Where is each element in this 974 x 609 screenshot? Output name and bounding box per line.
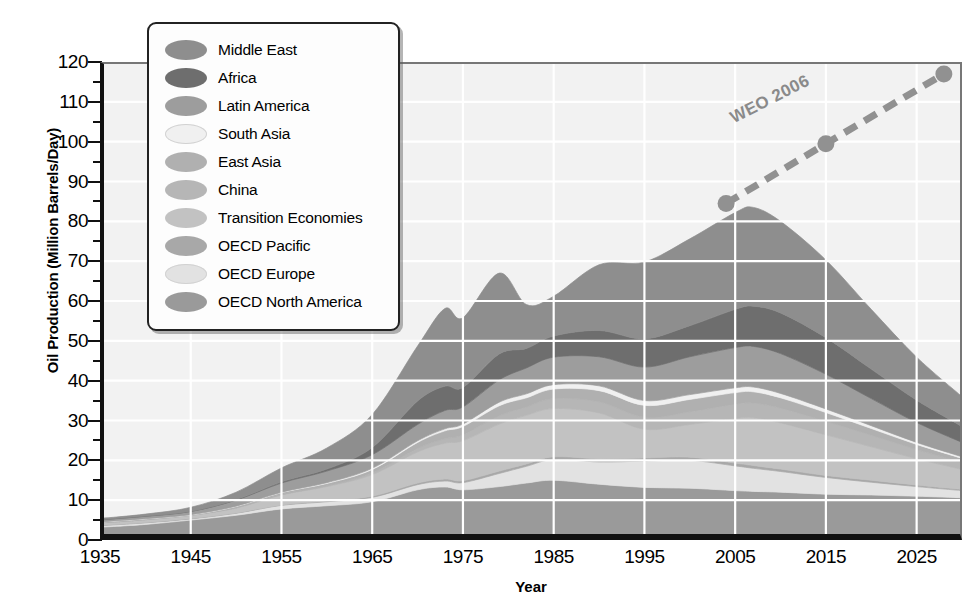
weo-projection-marker: [935, 65, 952, 82]
x-axis-tick-label: 2005: [700, 546, 770, 568]
legend-swatch-icon: [165, 292, 207, 312]
y-axis-tick-label: 20: [30, 450, 88, 469]
y-axis-tick-label: 110: [30, 92, 88, 111]
legend-label: OECD Pacific: [218, 237, 310, 255]
x-axis-tick-label: 1945: [156, 546, 226, 568]
legend-label: OECD North America: [218, 293, 362, 311]
legend-swatch-icon: [165, 264, 207, 284]
x-axis-title: Year: [100, 578, 962, 595]
y-axis-tick-label: 40: [30, 371, 88, 390]
legend-label: Transition Economies: [218, 209, 362, 227]
legend-swatch-icon: [165, 180, 207, 200]
legend-item[interactable]: China: [149, 176, 398, 204]
x-axis-tick-label: 1965: [337, 546, 407, 568]
legend-label: Middle East: [218, 41, 297, 59]
legend-swatch-icon: [165, 96, 207, 116]
x-axis-tick-labels: 1935194519551965197519851995200520152025: [0, 546, 974, 576]
legend-item[interactable]: OECD North America: [149, 288, 398, 316]
legend-item[interactable]: Africa: [149, 64, 398, 92]
legend-label: South Asia: [218, 125, 290, 143]
legend[interactable]: Middle EastAfricaLatin AmericaSouth Asia…: [147, 22, 400, 331]
y-axis-tick-label: 30: [30, 411, 88, 430]
legend-swatch-icon: [165, 208, 207, 228]
y-axis-tick-label: 80: [30, 211, 88, 230]
y-axis-tick-label: 50: [30, 331, 88, 350]
legend-item[interactable]: Latin America: [149, 92, 398, 120]
weo-projection-marker: [817, 135, 834, 152]
x-axis-tick-label: 1955: [246, 546, 316, 568]
legend-swatch-icon: [165, 68, 207, 88]
x-axis-tick-label: 2015: [791, 546, 861, 568]
y-axis-tick-label: 120: [30, 52, 88, 71]
legend-swatch-icon: [165, 236, 207, 256]
legend-label: OECD Europe: [218, 265, 315, 283]
legend-label: East Asia: [218, 153, 281, 171]
legend-item[interactable]: Transition Economies: [149, 204, 398, 232]
x-axis-tick-label: 1935: [65, 546, 135, 568]
weo-projection-marker: [718, 195, 735, 212]
legend-swatch-icon: [165, 40, 207, 60]
legend-item[interactable]: OECD Europe: [149, 260, 398, 288]
legend-label: Latin America: [218, 97, 309, 115]
y-axis-tick-label: 10: [30, 490, 88, 509]
legend-item[interactable]: South Asia: [149, 120, 398, 148]
y-axis-tick-label: 70: [30, 251, 88, 270]
x-axis-tick-label: 2025: [882, 546, 952, 568]
legend-swatch-icon: [165, 124, 207, 144]
legend-item[interactable]: Middle East: [149, 36, 398, 64]
legend-swatch-icon: [165, 152, 207, 172]
y-axis-tick-label: 60: [30, 291, 88, 310]
y-axis-tick-labels: 0102030405060708090100110120: [24, 0, 88, 609]
y-axis-tick-label: 90: [30, 172, 88, 191]
legend-label: Africa: [218, 69, 256, 87]
legend-item[interactable]: East Asia: [149, 148, 398, 176]
legend-label: China: [218, 181, 258, 199]
y-axis-tick-label: 100: [30, 132, 88, 151]
chart-figure: Oil Production (Million Barrels/Day) 010…: [0, 0, 974, 609]
x-axis-tick-label: 1995: [609, 546, 679, 568]
x-axis-tick-label: 1985: [519, 546, 589, 568]
legend-item[interactable]: OECD Pacific: [149, 232, 398, 260]
x-axis-tick-label: 1975: [428, 546, 498, 568]
